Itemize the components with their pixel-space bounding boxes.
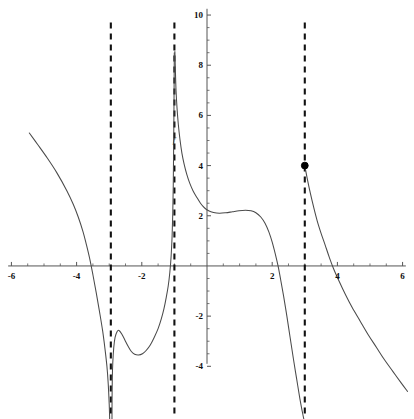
plot-area: f <box>0 0 414 419</box>
x-tick-label: -6 <box>8 272 16 281</box>
x-tick-label: -4 <box>73 272 81 281</box>
branch-far-right <box>305 166 408 392</box>
y-axis-curve-label: f <box>173 135 177 145</box>
y-tick-label: 6 <box>199 111 204 120</box>
y-tick-label: 10 <box>194 11 203 20</box>
x-tick-label: 2 <box>270 272 275 281</box>
branch-middle-left <box>112 53 174 419</box>
branch-middle-right <box>175 51 304 419</box>
y-tick-label: 2 <box>199 211 204 220</box>
y-tick-label: -2 <box>196 312 204 321</box>
branch-far-left <box>29 133 109 419</box>
y-tick-label: -4 <box>196 362 204 371</box>
y-tick-label: 8 <box>199 61 204 70</box>
graph-figure: f -6-4-2246108642-2-4 <box>0 0 414 419</box>
x-tick-label: -2 <box>138 272 146 281</box>
x-tick-label: 4 <box>335 272 340 281</box>
endpoint-filled-dot <box>301 162 308 169</box>
x-tick-label: 6 <box>400 272 405 281</box>
y-tick-label: 4 <box>199 161 204 170</box>
